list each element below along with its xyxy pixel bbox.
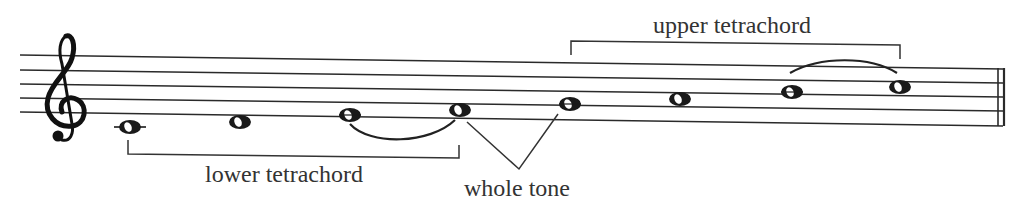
note-d4 — [229, 115, 251, 129]
half-step-slur-lower — [350, 120, 455, 139]
notes — [114, 80, 911, 134]
upper-tetrachord-label: upper tetrachord — [653, 12, 811, 38]
whole-tone-pointer — [467, 114, 558, 169]
staff-line-4 — [20, 98, 1003, 111]
staff-line-2 — [20, 70, 1003, 83]
lower-tetrachord-bracket — [128, 140, 459, 158]
note-f4 — [449, 103, 471, 117]
upper-tetrachord-bracket — [571, 41, 900, 59]
whole-tone-label: whole tone — [464, 175, 570, 201]
scale-diagram: upper tetrachord lower tetrachord whole … — [0, 0, 1013, 218]
note-a4 — [669, 92, 691, 106]
note-e4 — [339, 108, 361, 122]
staff — [20, 55, 1003, 126]
note-c4 — [114, 120, 146, 134]
staff-line-5 — [20, 112, 1003, 126]
note-g4 — [559, 97, 581, 111]
note-b4 — [781, 85, 803, 99]
treble-clef-icon — [47, 36, 84, 142]
lower-tetrachord-label: lower tetrachord — [205, 161, 363, 187]
staff-line-3 — [20, 84, 1003, 97]
note-c5 — [889, 80, 911, 94]
staff-line-1 — [20, 55, 1003, 69]
